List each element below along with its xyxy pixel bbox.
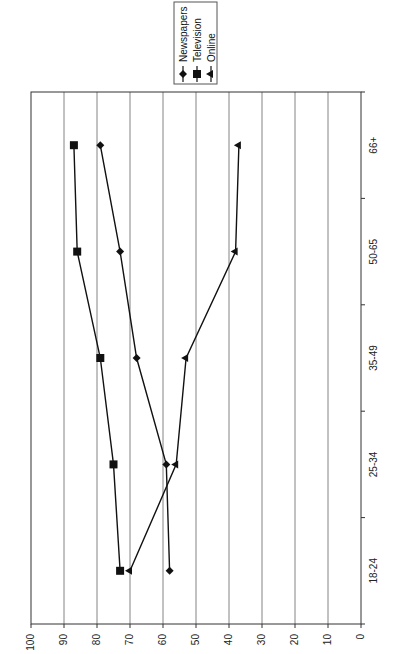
diamond-marker <box>133 354 141 362</box>
diamond-marker <box>116 248 124 256</box>
series-online <box>125 141 241 575</box>
category-tick-label: 35-49 <box>368 345 379 371</box>
value-tick-label: 20 <box>289 634 300 646</box>
triangle-marker <box>234 141 241 149</box>
value-tick-label: 30 <box>256 634 267 646</box>
category-tick-label: 18-24 <box>368 558 379 584</box>
value-axis: 0102030405060708090100 <box>25 624 366 651</box>
line-chart: 0102030405060708090100 18-2425-3435-4950… <box>0 0 395 654</box>
legend-label: Newspapers <box>178 6 189 62</box>
value-tick-label: 100 <box>25 634 36 651</box>
diamond-marker <box>162 460 170 468</box>
data-series <box>70 141 241 575</box>
value-tick-label: 70 <box>124 634 135 646</box>
triangle-marker <box>181 354 188 362</box>
legend: NewspapersTelevisionOnline <box>174 2 217 84</box>
diamond-marker <box>96 141 104 149</box>
square-marker <box>116 567 124 575</box>
category-tick-label: 66+ <box>368 137 379 154</box>
square-marker <box>73 248 81 256</box>
square-marker <box>110 460 118 468</box>
value-tick-label: 50 <box>190 634 201 646</box>
series-newspapers <box>96 141 173 575</box>
category-axis: 18-2425-3435-4950-6566+ <box>361 92 379 624</box>
value-tick-label: 40 <box>223 634 234 646</box>
legend-label: Television <box>192 18 203 62</box>
value-tick-label: 60 <box>157 634 168 646</box>
square-marker <box>70 141 78 149</box>
category-tick-label: 25-34 <box>368 451 379 477</box>
category-tick-label: 50-65 <box>368 238 379 264</box>
triangle-marker <box>125 567 132 575</box>
diamond-marker <box>166 567 174 575</box>
legend-label: Online <box>206 33 217 62</box>
square-marker <box>96 354 104 362</box>
square-marker <box>193 70 201 78</box>
value-tick-label: 80 <box>91 634 102 646</box>
value-tick-label: 0 <box>355 634 366 640</box>
value-tick-label: 90 <box>58 634 69 646</box>
value-tick-label: 10 <box>322 634 333 646</box>
